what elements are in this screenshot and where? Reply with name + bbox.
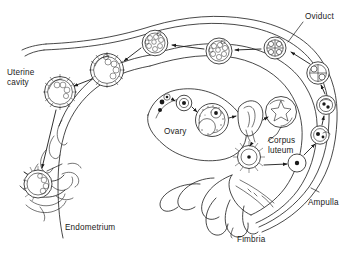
leader-endometrium-pointer — [47, 164, 62, 171]
label-oviduct: Oviduct — [305, 12, 334, 21]
primordial-follicle-icon — [160, 100, 165, 105]
leader-fimbria — [231, 228, 233, 238]
four-cell-stage-icon — [264, 37, 286, 59]
diagram-canvas: Oviduct Uterine cavity Ovary Corpus lute… — [0, 0, 361, 253]
free-blastocyst-icon — [43, 74, 77, 110]
arrow-primary-to-graafian — [192, 107, 197, 112]
arrow-fertilization-to-zygote — [322, 116, 324, 125]
early-blastocyst-icon — [89, 52, 125, 88]
label-corpus-luteum-line2: luteum — [268, 146, 294, 155]
fimbria-projections — [160, 175, 274, 237]
implanting-blastocyst-icon — [23, 166, 52, 201]
primary-follicle-icon — [176, 95, 192, 111]
label-uterine-cavity-line2: cavity — [7, 78, 30, 87]
corpus-albicans-icon — [233, 141, 265, 173]
arrow-two-cell-to-four-cell — [291, 52, 310, 64]
arrow-blastocyst-to-free-blastocyst — [74, 79, 92, 86]
arrow-ovum-to-fertilization — [304, 144, 315, 155]
label-ovary: Ovary — [164, 127, 187, 136]
endometrium-lining — [20, 120, 81, 221]
arrow-ovulation-to-ampulla — [264, 164, 287, 165]
late-morula-icon — [142, 30, 168, 56]
corpus-luteum-icon — [266, 97, 297, 128]
label-endometrium: Endometrium — [65, 223, 115, 232]
primordial-follicle-icon — [158, 108, 162, 112]
reproductive-tract-diagram: Oviduct Uterine cavity Ovary Corpus lute… — [0, 0, 361, 253]
label-uterine-cavity-line1: Uterine — [7, 68, 35, 77]
graafian-follicle-icon — [196, 104, 229, 137]
two-cell-stage-icon — [307, 62, 329, 84]
arrow-to-implantation — [42, 110, 56, 168]
ovum-in-ampulla-icon — [288, 154, 306, 172]
label-group: Oviduct Uterine cavity Ovary Corpus lute… — [7, 12, 339, 244]
label-fimbria: Fimbria — [237, 235, 266, 244]
label-ampulla: Ampulla — [308, 198, 339, 207]
ovulating-follicle-icon — [238, 101, 263, 142]
label-corpus-luteum-line1: Corpus — [268, 136, 295, 145]
morula-icon — [206, 38, 232, 64]
zygote-icon — [317, 96, 336, 115]
arrow-graafian-to-ovulation — [229, 116, 236, 118]
